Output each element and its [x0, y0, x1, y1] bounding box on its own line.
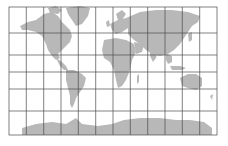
japan	[188, 32, 192, 42]
antarctica	[22, 118, 212, 135]
indonesia	[170, 66, 186, 70]
landmasses	[20, 6, 213, 135]
australia	[180, 74, 202, 90]
british-isles	[106, 20, 110, 27]
central-america	[56, 58, 68, 70]
world-map	[0, 0, 228, 146]
southeast-asia	[166, 54, 172, 64]
new-zealand	[210, 94, 213, 100]
north-america	[20, 12, 72, 60]
africa	[102, 38, 136, 88]
madagascar	[137, 74, 139, 84]
